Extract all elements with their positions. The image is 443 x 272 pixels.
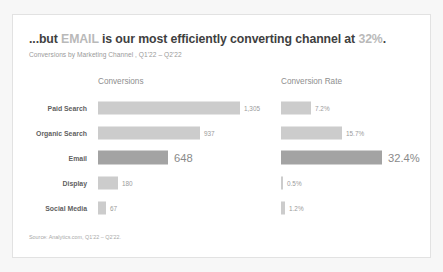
conversion-rate-panel-cell: 0.5% bbox=[281, 170, 426, 195]
chart-rows: Paid Search 1,305 7.2% Organic Search bbox=[13, 95, 432, 220]
conversions-bar bbox=[98, 101, 240, 114]
row-label: Paid Search bbox=[19, 104, 87, 111]
conversion-rate-panel-cell: 1.2% bbox=[281, 195, 426, 220]
column-header-conversions: Conversions bbox=[98, 77, 144, 86]
chart-title: ...but EMAIL is our most efficiently con… bbox=[29, 32, 386, 46]
conversion-rate-bar-value: 1.2% bbox=[289, 204, 304, 211]
conversions-bar-value: 180 bbox=[122, 179, 133, 186]
conversion-rate-panel-cell: 32.4% bbox=[281, 145, 426, 170]
table-row: Display 180 0.5% bbox=[13, 170, 432, 195]
conversions-panel-cell: 1,305 bbox=[98, 95, 270, 120]
conversion-rate-panel-cell: 15.7% bbox=[281, 120, 426, 145]
conversion-rate-bar bbox=[281, 126, 342, 139]
conversion-rate-bar-value: 0.5% bbox=[287, 179, 302, 186]
title-middle: is our most efficiently converting chann… bbox=[99, 32, 359, 46]
chart-subtitle: Conversions by Marketing Channel , Q1'22… bbox=[29, 51, 182, 58]
source-note: Source: Analytics.com, Q1'22 – Q2'22. bbox=[29, 234, 121, 240]
conversions-bar-value: 648 bbox=[174, 152, 193, 164]
conversion-rate-panel-cell: 7.2% bbox=[281, 95, 426, 120]
title-suffix: . bbox=[383, 32, 386, 46]
table-row: Paid Search 1,305 7.2% bbox=[13, 95, 432, 120]
conversion-rate-bar bbox=[281, 201, 285, 214]
conversions-panel-cell: 67 bbox=[98, 195, 270, 220]
conversions-bar bbox=[98, 176, 118, 189]
table-row: Organic Search 937 15.7% bbox=[13, 120, 432, 145]
conversions-bar-highlight bbox=[98, 151, 168, 165]
conversions-panel-cell: 648 bbox=[98, 145, 270, 170]
chart-card: ...but EMAIL is our most efficiently con… bbox=[12, 14, 431, 258]
row-label: Organic Search bbox=[19, 129, 87, 136]
table-row: Social Media 67 1.2% bbox=[13, 195, 432, 220]
conversions-panel-cell: 937 bbox=[98, 120, 270, 145]
title-highlight-percent: 32% bbox=[358, 32, 382, 46]
conversions-bar-value: 1,305 bbox=[244, 104, 260, 111]
title-prefix: ...but bbox=[29, 32, 61, 46]
conversions-bar bbox=[98, 201, 106, 214]
conversions-bar-value: 937 bbox=[204, 129, 215, 136]
conversion-rate-bar-value: 15.7% bbox=[346, 129, 364, 136]
row-label: Social Media bbox=[19, 204, 87, 211]
conversion-rate-bar-value: 7.2% bbox=[315, 104, 330, 111]
table-row: Email 648 32.4% bbox=[13, 145, 432, 170]
title-highlight-email: EMAIL bbox=[61, 32, 99, 46]
conversions-panel-cell: 180 bbox=[98, 170, 270, 195]
row-label: Display bbox=[19, 179, 87, 186]
screenshot-canvas: ...but EMAIL is our most efficiently con… bbox=[0, 0, 443, 272]
conversion-rate-bar bbox=[281, 176, 283, 189]
conversion-rate-bar-highlight bbox=[281, 151, 382, 165]
row-label: Email bbox=[19, 154, 87, 161]
column-header-conversion-rate: Conversion Rate bbox=[281, 77, 342, 86]
conversions-bar bbox=[98, 126, 200, 139]
conversion-rate-bar-value: 32.4% bbox=[388, 152, 420, 164]
conversion-rate-bar bbox=[281, 101, 311, 114]
conversions-bar-value: 67 bbox=[110, 204, 117, 211]
